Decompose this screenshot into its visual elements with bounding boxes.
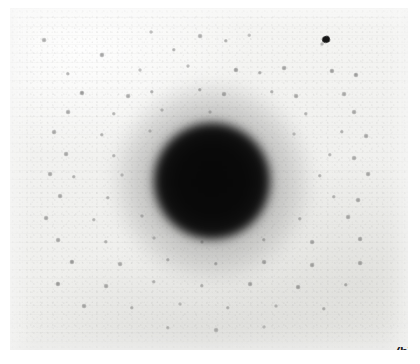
diffraction-spot bbox=[82, 304, 87, 309]
diffraction-spot bbox=[198, 34, 203, 39]
diffraction-spot bbox=[66, 110, 71, 115]
diffraction-spot bbox=[248, 282, 253, 287]
diffraction-spot bbox=[294, 94, 299, 99]
beam-grain-texture bbox=[154, 123, 270, 239]
diffraction-spot bbox=[104, 284, 109, 289]
diffraction-spot bbox=[310, 240, 315, 245]
diffraction-spot bbox=[42, 38, 47, 43]
diffraction-plate: (b) bbox=[10, 8, 408, 350]
diffraction-spot bbox=[342, 92, 347, 97]
diffraction-spot bbox=[52, 130, 57, 135]
diffraction-spot bbox=[44, 216, 49, 221]
diffraction-spot bbox=[64, 152, 69, 157]
diffraction-spot bbox=[214, 328, 219, 333]
diffraction-spot bbox=[352, 110, 357, 115]
diffraction-spot bbox=[118, 262, 123, 267]
diffraction-spot bbox=[352, 156, 357, 161]
diffraction-spot bbox=[178, 302, 182, 306]
diffraction-spot bbox=[58, 194, 63, 199]
diffraction-spot bbox=[48, 172, 53, 177]
diffraction-spot bbox=[56, 238, 61, 243]
diffraction-spot bbox=[186, 64, 190, 68]
diffraction-spot bbox=[364, 134, 369, 139]
diffraction-spot bbox=[358, 261, 363, 266]
diffraction-spot bbox=[358, 237, 363, 242]
direct-beam-spot bbox=[154, 123, 270, 239]
diffraction-spot bbox=[149, 30, 153, 34]
diffraction-spot bbox=[296, 285, 301, 290]
diffraction-spot bbox=[126, 94, 131, 99]
panel-label: (b) bbox=[396, 345, 408, 350]
diffraction-spot bbox=[138, 68, 142, 72]
diffraction-spot bbox=[346, 215, 351, 220]
diffraction-spot bbox=[356, 198, 361, 203]
figure-root: (b) bbox=[0, 0, 420, 364]
diffraction-spot bbox=[366, 172, 371, 177]
diffraction-spot bbox=[282, 66, 287, 71]
diffraction-spot bbox=[262, 325, 266, 329]
diffraction-spot bbox=[310, 263, 315, 268]
diffraction-spot bbox=[247, 33, 251, 37]
diffraction-spot bbox=[274, 304, 278, 308]
